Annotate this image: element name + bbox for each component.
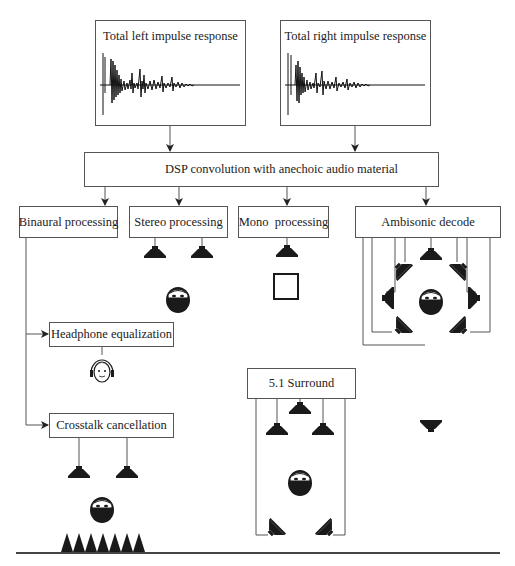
- mono-square-source-icon: [274, 274, 298, 299]
- crosstalk-right-speaker-icon: [116, 466, 138, 478]
- surround-rear-left-speaker-icon: [262, 518, 286, 542]
- surround-listener-icon: [288, 470, 312, 496]
- ambisonic-left-speaker-icon: [382, 287, 394, 309]
- ambisonic-rear-left-speaker-icon: [389, 316, 413, 340]
- ambisonic-front-left-speaker-icon: [389, 257, 413, 281]
- surround-center-speaker-icon: [289, 402, 311, 414]
- surround-left-speaker-icon: [266, 423, 288, 435]
- ambisonic-right-speaker-icon: [468, 287, 480, 309]
- icon-layer: [0, 0, 515, 566]
- stereo-listener-icon: [166, 287, 190, 313]
- stereo-right-speaker-icon: [191, 246, 213, 258]
- ambisonic-listener-icon: [419, 289, 443, 315]
- surround-rear-right-speaker-icon: [315, 518, 339, 542]
- ambisonic-front-right-speaker-icon: [449, 257, 473, 281]
- surround-right-speaker-icon: [312, 423, 334, 435]
- mono-speaker-icon: [276, 245, 298, 257]
- headphone-listener-icon: [90, 360, 114, 382]
- ambisonic-rear-speaker-icon: [420, 420, 442, 432]
- crosstalk-left-speaker-icon: [68, 466, 90, 478]
- stereo-left-speaker-icon: [144, 246, 166, 258]
- ambisonic-rear-right-speaker-icon: [449, 316, 473, 340]
- crosstalk-listener-icon: [90, 497, 114, 523]
- ambisonic-front-speaker-icon: [420, 248, 442, 260]
- anechoic-wedges-icon: [61, 533, 145, 552]
